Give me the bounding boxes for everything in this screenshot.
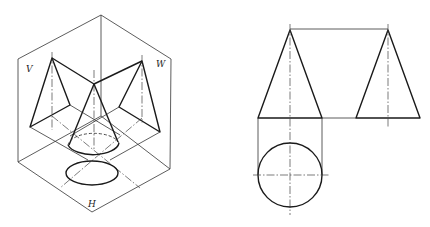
h-plane-circle-projection [66, 161, 118, 185]
projection-box-outline [18, 15, 171, 212]
plane-label-h: H [87, 199, 96, 209]
h-axis-centerline-2 [60, 118, 142, 188]
cone-projection-figure: V W H [0, 0, 430, 227]
v-plane-triangle [30, 58, 70, 127]
v-base-projector [30, 127, 88, 160]
isometric-projection-view: V W H [18, 15, 171, 212]
plane-label-w: W [156, 59, 166, 69]
w-base-projector [70, 107, 119, 136]
h-axis-centerline-1 [52, 116, 140, 188]
cone-left-generator [69, 84, 94, 145]
wh-axis-line [101, 116, 170, 169]
w-plane-triangle [119, 61, 160, 132]
cone-right-generator [94, 84, 118, 142]
plane-label-v: V [26, 64, 34, 74]
v-apex-projector [52, 58, 94, 84]
orthographic-view [253, 24, 420, 215]
